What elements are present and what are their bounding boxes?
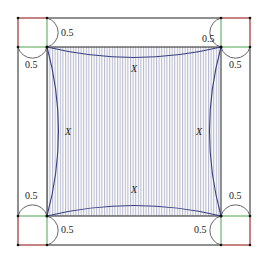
label-top-left-below: 0.5 [25, 59, 38, 70]
label-bottom-left-right: 0.5 [61, 224, 74, 235]
label-bottom-right-above: 0.5 [229, 190, 242, 201]
label-x-left: X [64, 126, 72, 137]
label-x-bottom: X [130, 184, 138, 195]
label-bottom-left-above: 0.5 [25, 190, 38, 201]
geometry-diagram: 0.5 0.5 0.5 0.5 0.5 0.5 0.5 0.5 X X X X [0, 0, 266, 262]
label-top-right-below: 0.5 [229, 59, 242, 70]
label-top-right-left: 0.5 [202, 33, 215, 44]
label-top-left-right: 0.5 [61, 27, 74, 38]
label-x-right: X [195, 126, 203, 137]
label-x-top: X [130, 63, 138, 74]
label-bottom-right-left: 0.5 [194, 224, 207, 235]
